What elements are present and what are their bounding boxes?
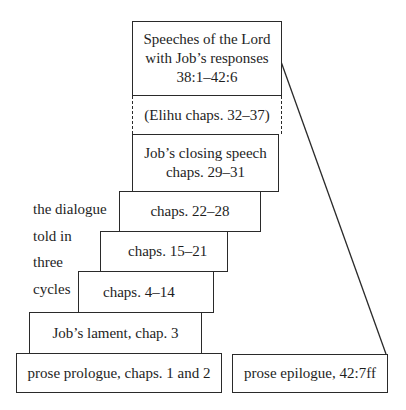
elihu-label: (Elihu chaps. 32–37)	[144, 106, 269, 125]
cycle3-label: chaps. 22–28	[150, 202, 229, 221]
epilogue-box: prose epilogue, 42:7ff	[232, 354, 388, 393]
lament-label: Job’s lament, chap. 3	[52, 324, 178, 343]
side-label-line4: cycles	[33, 280, 70, 298]
prologue-box: prose prologue, chaps. 1 and 2	[16, 353, 222, 393]
cycle2-box: chaps. 15–21	[100, 231, 228, 272]
elihu-box: (Elihu chaps. 32–37)	[132, 96, 282, 134]
side-label-line1: the dialogue	[33, 200, 107, 218]
closing-speech-line2: chaps. 29–31	[166, 163, 245, 182]
cycle2-label: chaps. 15–21	[128, 242, 207, 261]
closing-speech-line1: Job’s closing speech	[144, 144, 266, 163]
side-label-line3: three	[33, 253, 63, 271]
lord-speeches-line2: with Job’s responses	[145, 49, 268, 68]
cycle1-label: chaps. 4–14	[103, 283, 175, 302]
side-label-line2: told in	[33, 227, 72, 245]
cycle1-box: chaps. 4–14	[78, 271, 214, 313]
lord-speeches-line3: 38:1–42:6	[177, 68, 238, 87]
cycle3-box: chaps. 22–28	[119, 191, 261, 232]
lament-box: Job’s lament, chap. 3	[29, 312, 202, 354]
epilogue-label: prose epilogue, 42:7ff	[244, 364, 376, 383]
lord-speeches-box: Speeches of the Lord with Job’s response…	[132, 21, 282, 96]
closing-speech-box: Job’s closing speech chaps. 29–31	[132, 134, 279, 192]
lord-speeches-line1: Speeches of the Lord	[143, 30, 270, 49]
prologue-label: prose prologue, chaps. 1 and 2	[28, 364, 211, 383]
